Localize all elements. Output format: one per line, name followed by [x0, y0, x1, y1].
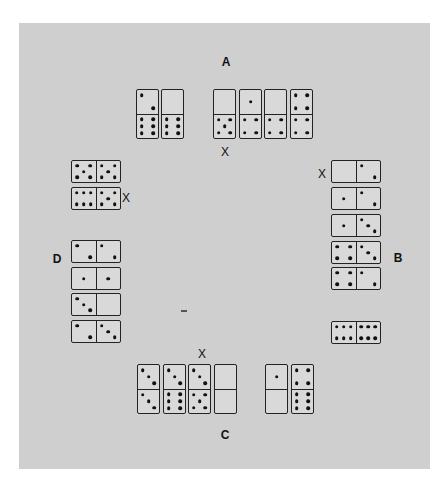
pip-dot: [153, 382, 157, 386]
domino-half-4: [265, 115, 286, 139]
pip-dot: [177, 132, 181, 136]
pip-dot: [106, 330, 110, 334]
pip-dot: [198, 375, 202, 379]
pip-dot: [294, 131, 298, 135]
domino-half-0: [214, 90, 235, 115]
domino-0-2[interactable]: [331, 160, 381, 183]
domino-1-3[interactable]: [331, 214, 381, 237]
pip-dot: [89, 203, 93, 207]
pip-dot: [360, 245, 364, 249]
x-mark-a: X: [221, 146, 229, 158]
pip-dot: [75, 176, 79, 180]
domino-half-1: [97, 268, 121, 289]
pip-dot: [177, 117, 181, 121]
domino-0-5[interactable]: [213, 89, 236, 139]
pip-dot: [192, 406, 196, 410]
domino-half-0: [215, 365, 236, 390]
pip-dot: [82, 303, 86, 307]
pip-dot: [306, 93, 310, 97]
domino-half-6: [162, 115, 183, 139]
pip-dot: [204, 393, 208, 397]
domino-1-1[interactable]: [71, 267, 121, 290]
pip-dot: [374, 325, 378, 329]
domino-0-6[interactable]: [161, 89, 184, 139]
pip-dot: [255, 131, 259, 135]
pip-dot: [294, 93, 298, 97]
pip-dot: [307, 407, 311, 411]
pip-dot: [89, 256, 93, 260]
pip-dot: [179, 382, 183, 386]
domino-1-4[interactable]: [239, 89, 262, 139]
domino-half-2: [357, 268, 381, 289]
pip-dot: [243, 131, 247, 135]
pip-dot: [295, 368, 299, 372]
pip-dot: [366, 224, 370, 228]
pip-dot: [275, 375, 279, 379]
domino-3-3[interactable]: [137, 364, 160, 414]
domino-0-4[interactable]: [264, 89, 287, 139]
domino-2-2[interactable]: [71, 240, 121, 263]
domino-half-3: [97, 321, 121, 342]
pip-dot: [113, 191, 117, 195]
domino-half-6: [332, 322, 357, 343]
domino-2-6[interactable]: [136, 89, 159, 139]
domino-half-6: [164, 390, 185, 414]
pip-dot: [141, 393, 145, 397]
pip-dot: [229, 118, 233, 122]
domino-4-3[interactable]: [331, 241, 381, 264]
pip-dot: [75, 324, 79, 328]
pip-dot: [75, 164, 79, 168]
domino-3-6[interactable]: [163, 364, 186, 414]
pip-dot: [342, 197, 346, 201]
domino-4-4[interactable]: [290, 89, 313, 139]
pip-dot: [89, 336, 93, 340]
domino-half-2: [357, 188, 381, 209]
pip-dot: [335, 257, 339, 261]
domino-1-0[interactable]: [265, 364, 288, 414]
x-mark-c: X: [198, 348, 206, 360]
pip-dot: [147, 375, 151, 379]
pip-dot: [141, 368, 145, 372]
pip-dot: [349, 257, 353, 261]
domino-5-5[interactable]: [71, 160, 121, 183]
pip-dot: [113, 176, 117, 180]
pip-dot: [82, 203, 86, 207]
domino-3-5[interactable]: [188, 364, 211, 414]
pip-dot: [335, 271, 339, 275]
pip-dot: [113, 203, 117, 207]
domino-0-0[interactable]: [214, 364, 237, 414]
pip-dot: [192, 393, 196, 397]
domino-6-6[interactable]: [331, 321, 381, 344]
domino-half-6: [72, 188, 97, 209]
domino-1-2[interactable]: [331, 187, 381, 210]
pip-dot: [75, 203, 79, 207]
domino-3-0[interactable]: [71, 293, 121, 316]
pip-dot: [100, 203, 104, 207]
pip-dot: [295, 382, 299, 386]
x-mark-b: X: [318, 168, 326, 180]
domino-6-5[interactable]: [71, 187, 121, 210]
pip-dot: [89, 176, 93, 180]
domino-half-3: [164, 365, 185, 390]
pip-dot: [255, 118, 259, 122]
pip-dot: [152, 132, 156, 136]
domino-half-0: [215, 390, 236, 414]
pip-dot: [243, 118, 247, 122]
domino-half-6: [292, 390, 313, 414]
domino-4-6[interactable]: [291, 364, 314, 414]
pip-dot: [349, 271, 353, 275]
domino-half-2: [97, 241, 121, 262]
pip-dot: [152, 117, 156, 121]
domino-4-2[interactable]: [331, 267, 381, 290]
pip-dot: [295, 407, 299, 411]
player-label-a: A: [219, 56, 233, 68]
domino-half-3: [138, 365, 159, 390]
pip-dot: [75, 191, 79, 195]
domino-half-2: [72, 241, 97, 262]
domino-2-3[interactable]: [71, 320, 121, 343]
domino-half-5: [189, 390, 210, 414]
pip-dot: [349, 245, 353, 249]
pip-dot: [89, 309, 93, 313]
domino-half-0: [266, 390, 287, 414]
pip-dot: [75, 297, 79, 301]
